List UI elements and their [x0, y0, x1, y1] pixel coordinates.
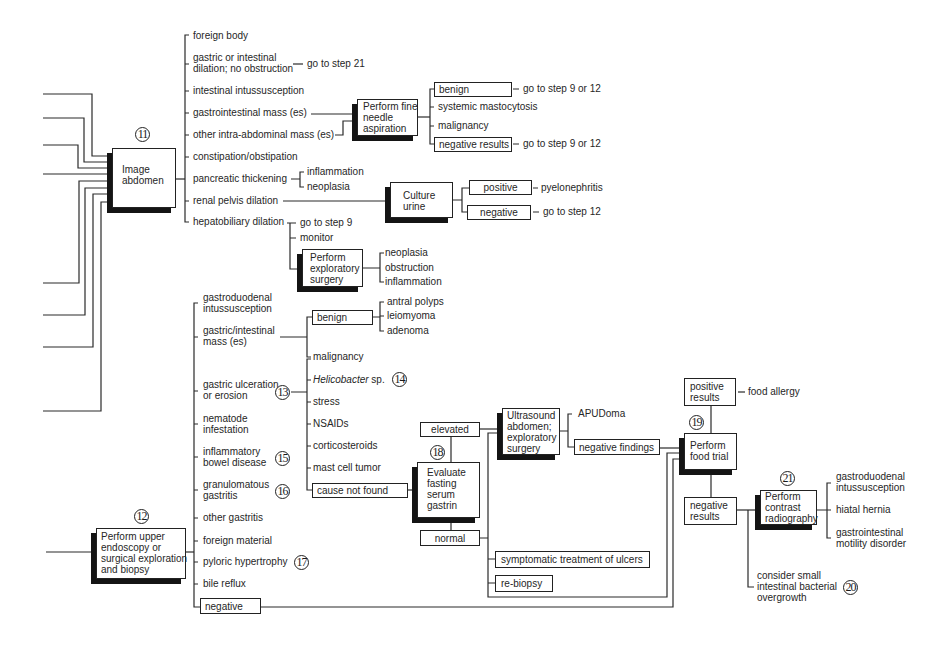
step-13-marker: 13	[275, 385, 290, 400]
image-abdomen-box: Image abdomen	[112, 148, 176, 208]
fna-benign-box: benign	[434, 82, 512, 97]
step-21-marker: 21	[780, 471, 795, 486]
contrast-motility-disorder: gastrointestinalmotility disorder	[836, 527, 906, 549]
ultrasound-exploratory-box: Ultrasound abdomen; exploratory surgery	[502, 408, 560, 455]
step-15-marker: 15	[275, 451, 290, 466]
finding-gi-mass: gastrointestinal mass (es)	[193, 107, 307, 118]
exploratory-neoplasia: neoplasia	[385, 247, 428, 258]
positive-results-box: positive results	[684, 378, 736, 406]
culture-negative-next: go to step 12	[543, 206, 601, 217]
box-label-line: positive	[690, 381, 735, 392]
endoscopy-negative-box: negative	[200, 598, 261, 614]
box-label-line: Perform	[765, 491, 816, 502]
exploratory-obstruction: obstruction	[385, 262, 434, 273]
step-14-marker: 14	[392, 372, 407, 387]
finding-granulomatous-gastritis: granulomatousgastritis	[203, 479, 269, 501]
box-label-line: serum	[427, 489, 479, 500]
mass-benign-box: benign	[312, 310, 373, 325]
box-label-line: Perform fine	[363, 101, 417, 112]
cause-nsaids: NSAIDs	[313, 418, 349, 429]
box-label-line: results	[690, 511, 736, 522]
box-label-line: endoscopy or	[101, 542, 185, 553]
finding-pyloric-hypertrophy: pyloric hypertrophy	[203, 556, 287, 567]
culture-positive-next: pyelonephritis	[541, 182, 603, 193]
box-label-line: Perform upper	[101, 531, 185, 542]
culture-negative-box: negative	[467, 205, 531, 220]
step-19-marker: 19	[689, 415, 704, 430]
fna-systemic-mastocytosis: systemic mastocytosis	[438, 101, 537, 112]
hepatobiliary-go-to-step-9: go to step 9	[300, 217, 352, 228]
contrast-gastroduodenal-intussusception: gastroduodenalintussusception	[836, 471, 905, 493]
culture-urine-box: Culture urine	[390, 182, 453, 218]
symptomatic-treatment-box: symptomatic treatment of ulcers	[495, 551, 650, 568]
food-trial-box: Perform food trial	[684, 433, 737, 470]
exploratory-surgery-box: Perform exploratory surgery	[302, 249, 363, 287]
finding-nematode-infestation: nematodeinfestation	[203, 413, 249, 435]
box-label-line: negative	[690, 500, 736, 511]
box-label-line: abdomen;	[507, 421, 559, 432]
box-label-line: fasting	[427, 478, 479, 489]
box-label-line: urine	[403, 201, 452, 212]
box-label-line: abdomen	[122, 175, 175, 186]
fine-needle-aspiration-box: Perform fine needle aspiration	[357, 99, 418, 136]
contrast-hiatal-hernia: hiatal hernia	[836, 504, 890, 515]
ultrasound-apudoma: APUDoma	[578, 408, 625, 419]
finding-intra-abdominal-mass: other intra-abdominal mass (es)	[193, 129, 334, 140]
benign-adenoma: adenoma	[387, 325, 429, 336]
sibo-label: consider smallintestinal bacterialovergr…	[757, 570, 837, 603]
food-allergy-label: food allergy	[748, 386, 800, 397]
hepatobiliary-monitor: monitor	[300, 232, 333, 243]
evaluate-gastrin-box: Evaluate fasting serum gastrin	[417, 462, 480, 518]
box-label-line: Ultrasound	[507, 410, 559, 421]
box-label-line: surgery	[507, 443, 559, 454]
re-biopsy-box: re-biopsy	[495, 575, 553, 592]
box-label-line: Image	[122, 164, 175, 175]
box-label-line: surgical exploration	[101, 553, 185, 564]
vomiting-diagnostic-flowchart: 11 Image abdomen foreign body gastric or…	[0, 0, 952, 646]
gastrin-normal-box: normal	[420, 530, 480, 546]
step-18-marker: 18	[430, 445, 445, 460]
finding-gastroduodenal-intussusception: gastroduodenalintussusception	[203, 292, 272, 314]
box-label-line: aspiration	[363, 123, 417, 134]
box-label-line: exploratory	[310, 263, 362, 274]
cause-stress: stress	[313, 396, 340, 407]
finding-foreign-material: foreign material	[203, 535, 272, 546]
box-label-line: radiography	[765, 513, 816, 524]
exploratory-inflammation: inflammation	[385, 276, 442, 287]
go-to-step-21-label: go to step 21	[307, 58, 365, 69]
finding-inflammatory-bowel-disease: inflammatorybowel disease	[203, 446, 266, 468]
box-label-line: and biopsy	[101, 564, 185, 575]
box-label-line: exploratory	[507, 432, 559, 443]
mass-malignancy: malignancy	[313, 351, 364, 362]
cause-helicobacter: Helicobacter sp.	[313, 374, 385, 385]
pancreatic-sub-inflammation: inflammation	[307, 166, 364, 177]
contrast-radiography-box: Perform contrast radiography	[760, 490, 817, 525]
benign-antral-polyps: antral polyps	[387, 296, 444, 307]
finding-pancreatic-thickening: pancreatic thickening	[193, 173, 287, 184]
cause-corticosteroids: corticosteroids	[313, 440, 377, 451]
step-17-marker: 17	[294, 555, 309, 570]
benign-leiomyoma: leiomyoma	[387, 310, 435, 321]
step-16-marker: 16	[275, 484, 290, 499]
box-label-line: Culture	[403, 190, 452, 201]
finding-gastric-ulceration: gastric ulcerationor erosion	[203, 379, 279, 401]
box-label-line: needle	[363, 112, 417, 123]
fna-malignancy: malignancy	[438, 120, 489, 131]
finding-hepatobiliary-dilation: hepatobiliary dilation	[193, 216, 284, 227]
box-label-line: Evaluate	[427, 467, 479, 478]
gastrin-elevated-box: elevated	[420, 422, 480, 437]
negative-findings-box: negative findings	[574, 439, 660, 455]
box-label-line: Perform	[690, 440, 736, 451]
finding-bile-reflux: bile reflux	[203, 578, 246, 589]
culture-positive-box: positive	[469, 180, 532, 195]
finding-intestinal-intussusception: intestinal intussusception	[193, 85, 304, 96]
box-label-line: gastrin	[427, 500, 479, 511]
finding-foreign-body: foreign body	[193, 30, 248, 41]
fna-negative-next: go to step 9 or 12	[523, 138, 601, 149]
fna-negative-results-box: negative results	[434, 137, 512, 152]
cause-mast-cell-tumor: mast cell tumor	[313, 462, 381, 473]
step-11-marker: 11	[135, 127, 150, 142]
box-label-line: food trial	[690, 451, 736, 462]
box-label-line: contrast	[765, 502, 816, 513]
box-label-line: Perform	[310, 252, 362, 263]
